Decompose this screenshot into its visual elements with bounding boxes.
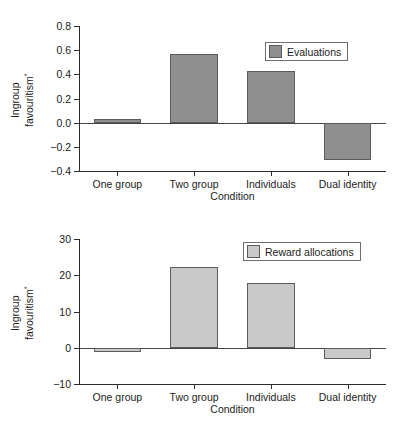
x-tick-mark xyxy=(117,171,118,176)
y-tick-label-wrap: −0.4 xyxy=(0,166,71,176)
y-tick-label: 10 xyxy=(37,307,71,317)
legend-swatch-reward xyxy=(247,245,260,258)
y-tick-label-wrap: −10 xyxy=(0,379,71,389)
y-tick-label: 0.0 xyxy=(37,118,71,128)
x-axis-category-label: Two group xyxy=(156,391,233,403)
x-axis-category-label: Dual identity xyxy=(309,178,386,190)
y-tick-label-wrap: 30 xyxy=(0,234,71,244)
y-tick-mark xyxy=(74,123,80,124)
y-axis-title-evaluations: Ingroupfavouritism* xyxy=(9,40,36,160)
y-tick-mark xyxy=(74,384,80,385)
x-tick-mark xyxy=(271,384,272,389)
x-tick-mark xyxy=(194,384,195,389)
chart-panel-evaluations: 0.80.60.40.20.0−0.2−0.4 One groupTwo gro… xyxy=(0,0,398,213)
bar xyxy=(324,348,372,359)
x-axis-title-evaluations: Condition xyxy=(79,190,386,202)
x-tick-mark xyxy=(117,384,118,389)
bar xyxy=(247,71,295,123)
figure-ingroup-favouritism: 0.80.60.40.20.0−0.2−0.4 One groupTwo gro… xyxy=(0,0,398,426)
x-axis-category-label: Individuals xyxy=(233,178,310,190)
y-tick-mark xyxy=(74,99,80,100)
bar xyxy=(247,283,295,348)
y-tick-label: 20 xyxy=(37,270,71,280)
bar xyxy=(324,123,372,160)
y-tick-label-wrap: 0.8 xyxy=(0,21,71,31)
x-tick-mark xyxy=(348,384,349,389)
y-tick-label: −0.2 xyxy=(37,142,71,152)
x-axis-category-label: Dual identity xyxy=(309,391,386,403)
y-tick-mark xyxy=(74,26,80,27)
x-axis-category-label: One group xyxy=(79,391,156,403)
chart-panel-reward-allocations: 3020100−10 One groupTwo groupIndividuals… xyxy=(0,213,398,426)
x-tick-mark xyxy=(194,171,195,176)
y-tick-mark xyxy=(74,312,80,313)
y-tick-mark xyxy=(74,275,80,276)
legend-reward-allocations: Reward allocations xyxy=(243,242,361,261)
y-tick-label: 30 xyxy=(37,234,71,244)
y-tick-mark xyxy=(74,348,80,349)
y-tick-label: −10 xyxy=(37,379,71,389)
y-tick-label: −0.4 xyxy=(37,166,71,176)
y-tick-mark xyxy=(74,147,80,148)
x-axis-title-reward: Condition xyxy=(79,403,386,415)
y-axis-title-reward: Ingroupfavouritism* xyxy=(9,253,36,373)
bar xyxy=(170,267,218,347)
legend-label-evaluations: Evaluations xyxy=(287,46,341,58)
y-tick-label: 0 xyxy=(37,343,71,353)
x-axis-category-label: Two group xyxy=(156,178,233,190)
legend-label-reward: Reward allocations xyxy=(265,246,354,258)
y-tick-mark xyxy=(74,74,80,75)
x-axis-line-reward xyxy=(79,384,386,385)
x-tick-mark xyxy=(348,171,349,176)
bar xyxy=(94,348,142,352)
y-tick-mark xyxy=(74,239,80,240)
y-tick-label: 0.8 xyxy=(37,21,71,31)
y-tick-mark xyxy=(74,171,80,172)
y-tick-mark xyxy=(74,50,80,51)
legend-swatch-evaluations xyxy=(269,45,282,58)
bar xyxy=(94,119,142,123)
y-tick-label: 0.2 xyxy=(37,94,71,104)
bar xyxy=(170,54,218,123)
x-axis-line-evaluations xyxy=(79,171,386,172)
x-axis-category-label: One group xyxy=(79,178,156,190)
x-axis-category-label: Individuals xyxy=(233,391,310,403)
y-tick-label: 0.4 xyxy=(37,69,71,79)
x-tick-mark xyxy=(271,171,272,176)
legend-evaluations: Evaluations xyxy=(265,42,348,61)
y-tick-label: 0.6 xyxy=(37,45,71,55)
